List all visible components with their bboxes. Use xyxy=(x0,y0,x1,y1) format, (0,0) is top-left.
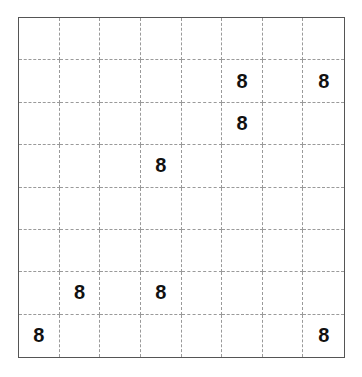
grid-cell-r6-c4[interactable] xyxy=(182,272,223,314)
grid-cell-r4-c4[interactable] xyxy=(182,188,223,230)
grid-cell-r4-c7[interactable] xyxy=(303,188,344,230)
grid-cell-r2-c6[interactable] xyxy=(263,103,304,145)
grid-cell-r1-c1[interactable] xyxy=(60,60,101,102)
grid-cell-r0-c4[interactable] xyxy=(182,18,223,60)
puzzle-grid: 88888888 xyxy=(18,17,345,358)
grid-cell-r7-c4[interactable] xyxy=(182,315,223,357)
grid-cell-r5-c3[interactable] xyxy=(141,230,182,272)
grid-cell-r3-c5[interactable] xyxy=(222,145,263,187)
grid-cell-r2-c0[interactable] xyxy=(19,103,60,145)
grid-cell-r3-c3[interactable]: 8 xyxy=(141,145,182,187)
grid-cell-r1-c0[interactable] xyxy=(19,60,60,102)
grid-cell-r2-c3[interactable] xyxy=(141,103,182,145)
grid-cell-r0-c3[interactable] xyxy=(141,18,182,60)
grid-cell-r6-c6[interactable] xyxy=(263,272,304,314)
grid-cell-r6-c1[interactable]: 8 xyxy=(60,272,101,314)
grid-cell-r6-c3[interactable]: 8 xyxy=(141,272,182,314)
grid-cell-r7-c7[interactable]: 8 xyxy=(303,315,344,357)
grid-cell-r4-c6[interactable] xyxy=(263,188,304,230)
grid-cell-r4-c2[interactable] xyxy=(100,188,141,230)
grid-cell-r7-c6[interactable] xyxy=(263,315,304,357)
grid-cell-r4-c3[interactable] xyxy=(141,188,182,230)
grid-cell-r2-c1[interactable] xyxy=(60,103,101,145)
grid-cell-r0-c5[interactable] xyxy=(222,18,263,60)
grid-cell-r4-c0[interactable] xyxy=(19,188,60,230)
grid-cell-r1-c6[interactable] xyxy=(263,60,304,102)
grid-cell-r6-c7[interactable] xyxy=(303,272,344,314)
grid-cell-r1-c2[interactable] xyxy=(100,60,141,102)
grid-cell-r5-c5[interactable] xyxy=(222,230,263,272)
grid-cell-r7-c1[interactable] xyxy=(60,315,101,357)
grid-cell-r5-c6[interactable] xyxy=(263,230,304,272)
grid-cell-r5-c0[interactable] xyxy=(19,230,60,272)
grid-cell-r2-c2[interactable] xyxy=(100,103,141,145)
grid-cell-r5-c4[interactable] xyxy=(182,230,223,272)
grid-cell-r0-c0[interactable] xyxy=(19,18,60,60)
grid-cell-r3-c4[interactable] xyxy=(182,145,223,187)
grid-cell-r7-c2[interactable] xyxy=(100,315,141,357)
grid-cell-r1-c3[interactable] xyxy=(141,60,182,102)
grid-cell-r2-c5[interactable]: 8 xyxy=(222,103,263,145)
grid-cell-r7-c3[interactable] xyxy=(141,315,182,357)
grid-cell-r0-c7[interactable] xyxy=(303,18,344,60)
grid-cell-r4-c1[interactable] xyxy=(60,188,101,230)
grid-cell-r4-c5[interactable] xyxy=(222,188,263,230)
grid-cell-r1-c4[interactable] xyxy=(182,60,223,102)
grid-cell-r0-c2[interactable] xyxy=(100,18,141,60)
grid-cell-r3-c0[interactable] xyxy=(19,145,60,187)
grid-cell-r6-c0[interactable] xyxy=(19,272,60,314)
grid-cell-r7-c5[interactable] xyxy=(222,315,263,357)
grid-cell-r2-c4[interactable] xyxy=(182,103,223,145)
grid-cell-r7-c0[interactable]: 8 xyxy=(19,315,60,357)
grid-cell-r2-c7[interactable] xyxy=(303,103,344,145)
grid-cell-r5-c7[interactable] xyxy=(303,230,344,272)
grid-cell-r3-c7[interactable] xyxy=(303,145,344,187)
grid-cell-r0-c1[interactable] xyxy=(60,18,101,60)
grid-cell-r5-c1[interactable] xyxy=(60,230,101,272)
grid-cell-r3-c1[interactable] xyxy=(60,145,101,187)
grid-cell-r0-c6[interactable] xyxy=(263,18,304,60)
grid-cell-r1-c5[interactable]: 8 xyxy=(222,60,263,102)
grid-cell-r6-c5[interactable] xyxy=(222,272,263,314)
grid-cell-r3-c6[interactable] xyxy=(263,145,304,187)
grid-cell-r1-c7[interactable]: 8 xyxy=(303,60,344,102)
grid-cell-r3-c2[interactable] xyxy=(100,145,141,187)
grid-cell-r5-c2[interactable] xyxy=(100,230,141,272)
grid-cell-r6-c2[interactable] xyxy=(100,272,141,314)
